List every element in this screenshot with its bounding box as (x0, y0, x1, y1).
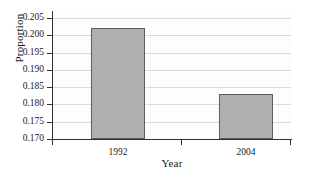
gridline (52, 53, 291, 54)
x-axis-tick-label: 2004 (216, 147, 276, 157)
x-axis-tick (181, 140, 182, 145)
y-axis-tick-label: 0.195 (23, 48, 44, 58)
gridline (52, 35, 291, 36)
y-axis-tick (47, 35, 52, 36)
y-axis-tick-label: 0.170 (23, 134, 44, 144)
y-axis-tick-label: 0.185 (23, 82, 44, 92)
y-axis-tick (47, 104, 52, 105)
y-axis-tick-label: 0.175 (23, 117, 44, 127)
bar (91, 28, 145, 139)
bar-chart-figure: Proportion 0.2050.2000.1950.1900.1850.18… (0, 0, 323, 170)
x-axis-tick (52, 140, 53, 145)
bar (219, 94, 273, 139)
gridline (52, 70, 291, 71)
y-axis-tick-label: 0.180 (23, 99, 44, 109)
x-axis-title: Year (52, 157, 292, 169)
y-axis-tick (47, 53, 52, 54)
y-axis-tick (47, 122, 52, 123)
y-axis-line (52, 11, 53, 140)
gridline (52, 18, 291, 19)
x-axis-tick (290, 140, 291, 145)
y-axis-tick-label: 0.190 (23, 65, 44, 75)
x-axis-tick-label: 1992 (88, 147, 148, 157)
y-axis-tick (47, 70, 52, 71)
y-axis-tick-label: 0.205 (23, 13, 44, 23)
x-axis-line (52, 139, 292, 140)
gridline (52, 87, 291, 88)
y-axis-tick (47, 18, 52, 19)
plot-area (52, 11, 291, 139)
y-axis-tick-label: 0.200 (23, 30, 44, 40)
y-axis-tick (47, 87, 52, 88)
